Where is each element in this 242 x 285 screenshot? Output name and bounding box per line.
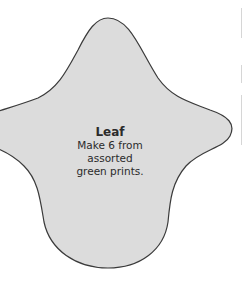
page-edge-mark: [241, 8, 242, 38]
pattern-instruction-line2: green prints.: [54, 165, 166, 178]
page-edge-mark: [241, 65, 242, 83]
pattern-label: Leaf Make 6 from assorted green prints.: [54, 125, 166, 178]
pattern-instruction-line1: Make 6 from assorted: [54, 139, 166, 165]
page-edge-mark: [241, 95, 242, 145]
pattern-title: Leaf: [54, 125, 166, 139]
